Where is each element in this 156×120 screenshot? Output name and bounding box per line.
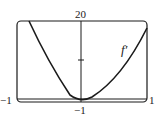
y-max-label: 20: [75, 9, 86, 20]
curve-label: f′: [121, 43, 127, 56]
y-min-label: −1: [74, 105, 86, 116]
x-max-label: 1: [149, 95, 155, 106]
f-prime-curve: [29, 21, 147, 100]
x-min-label: −1: [0, 95, 12, 106]
